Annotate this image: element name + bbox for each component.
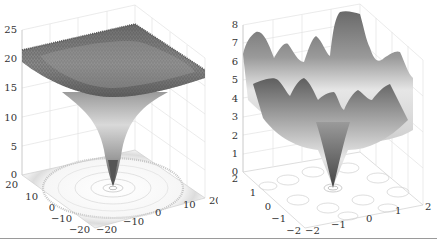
left-z-ticks: 25 20 15 10 5 0 [4,24,17,180]
right-plot-canvas: 8 7 6 5 4 3 2 1 0 2 1 0 −1 −2 −2 −1 0 1 … [218,0,437,240]
right-z-tick: 7 [232,37,238,48]
left-z-tick: 10 [4,112,17,123]
left-x-tick: −20 [96,224,117,235]
left-y-tick: 20 [5,179,18,190]
right-y-tick: 0 [265,201,271,212]
right-surface-plot: 8 7 6 5 4 3 2 1 0 2 1 0 −1 −2 −2 −1 0 1 … [218,0,437,240]
left-z-tick: 25 [4,24,17,35]
left-x-tick: −10 [123,216,144,227]
right-x-tick: −1 [331,219,346,230]
bottom-divider [0,238,437,239]
left-surface-plot: 25 20 15 10 5 0 20 10 0 −10 −20 −20 −10 … [0,0,218,240]
left-x-tick: 20 [209,195,218,206]
right-x-tick: 2 [425,201,431,212]
right-z-tick: 8 [232,19,238,30]
left-x-tick: 0 [155,207,161,218]
right-z-ticks: 8 7 6 5 4 3 2 1 0 [232,19,238,177]
left-plot-canvas: 25 20 15 10 5 0 20 10 0 −10 −20 −20 −10 … [0,0,218,240]
right-z-tick: 2 [232,130,238,141]
left-z-tick: 20 [4,53,17,64]
left-x-tick: 10 [183,199,196,210]
left-y-tick: −20 [69,224,90,235]
right-y-tick: 2 [232,173,238,184]
left-z-tick: 5 [11,141,17,152]
left-y-tick: 10 [25,191,38,202]
left-z-tick: 15 [4,82,17,93]
right-z-tick: 6 [232,56,238,67]
right-z-tick: 1 [232,148,238,159]
left-y-tick: −10 [51,213,72,224]
right-y-tick: −2 [286,225,301,236]
right-x-tick: 0 [366,213,372,224]
right-x-tick: −2 [305,225,320,236]
right-y-tick: −1 [271,213,286,224]
right-z-tick: 4 [232,93,238,104]
right-x-tick: 1 [395,205,401,216]
right-z-tick: 5 [232,74,238,85]
right-y-tick: 1 [250,187,256,198]
right-z-tick: 3 [232,111,238,122]
left-y-tick: 0 [49,202,55,213]
